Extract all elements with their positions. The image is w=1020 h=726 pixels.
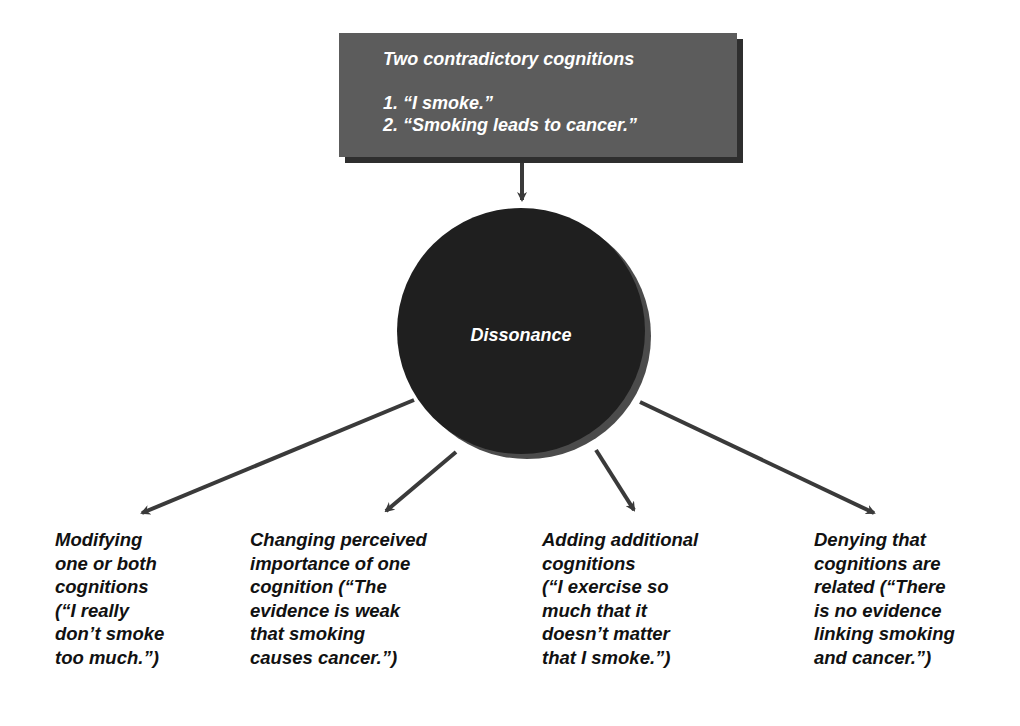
arrow-to-outcome-2: [386, 452, 456, 511]
arrow-to-outcome-3: [596, 450, 634, 510]
outcome-denying-relation: Denying that cognitions are related (“Th…: [814, 528, 955, 669]
outcome-adding-cognitions: Adding additional cognitions (“I exercis…: [542, 528, 698, 669]
arrow-to-outcome-1: [142, 400, 414, 513]
dissonance-node: Dissonance: [397, 208, 645, 454]
arrow-to-outcome-4: [640, 402, 874, 513]
outcome-changing-importance: Changing perceived importance of one cog…: [250, 528, 427, 669]
outcome-modifying-cognitions: Modifying one or both cognitions (“I rea…: [55, 528, 164, 669]
dissonance-label: Dissonance: [470, 325, 571, 346]
